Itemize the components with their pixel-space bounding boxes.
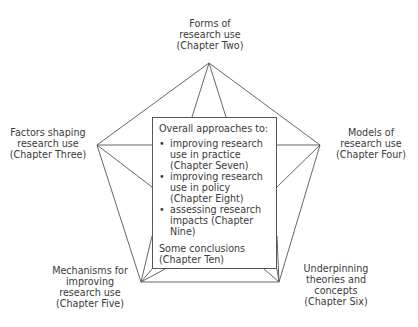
- node-line: concepts: [296, 285, 376, 296]
- node-line: (Chapter Two): [170, 40, 250, 51]
- node-line: Forms of: [170, 18, 250, 29]
- node-line: (Chapter Six): [296, 296, 376, 307]
- node-line: (Chapter Five): [48, 298, 132, 309]
- item-line: use in practice: [170, 149, 270, 160]
- center-heading: Overall approaches to:: [159, 123, 270, 134]
- item-line: impacts (Chapter: [170, 215, 270, 226]
- node-line: (Chapter Three): [2, 149, 94, 160]
- item-line: Nine): [170, 226, 270, 237]
- node-line: research use: [2, 138, 94, 149]
- node-line: improving: [48, 276, 132, 287]
- node-underpinning-theories-and-concepts: Underpinning theories and concepts (Chap…: [296, 263, 376, 307]
- node-line: theories and: [296, 274, 376, 285]
- node-line: Models of: [326, 127, 416, 138]
- item-line: use in policy: [170, 182, 270, 193]
- item-line: assessing research: [170, 204, 270, 215]
- node-line: Underpinning: [296, 263, 376, 274]
- center-list: improving research use in practice (Chap…: [159, 138, 270, 237]
- conclusion-line: (Chapter Ten): [159, 254, 270, 265]
- node-line: research use: [48, 287, 132, 298]
- item-line: (Chapter Seven): [170, 160, 270, 171]
- node-line: Factors shaping: [2, 127, 94, 138]
- center-box-overall-approaches: Overall approaches to: improving researc…: [152, 117, 277, 269]
- center-list-item: improving research use in policy (Chapte…: [159, 171, 270, 204]
- node-line: Mechanisms for: [48, 265, 132, 276]
- item-line: (Chapter Eight): [170, 193, 270, 204]
- item-line: improving research: [170, 138, 270, 149]
- node-line: research use: [326, 138, 416, 149]
- item-line: improving research: [170, 171, 270, 182]
- node-mechanisms-for-improving-research-use: Mechanisms for improving research use (C…: [48, 265, 132, 309]
- center-list-item: assessing research impacts (Chapter Nine…: [159, 204, 270, 237]
- center-list-item: improving research use in practice (Chap…: [159, 138, 270, 171]
- conclusion-line: Some conclusions: [159, 243, 270, 254]
- node-forms-of-research-use: Forms of research use (Chapter Two): [170, 18, 250, 51]
- node-factors-shaping-research-use: Factors shaping research use (Chapter Th…: [2, 127, 94, 160]
- node-line: research use: [170, 29, 250, 40]
- node-line: (Chapter Four): [326, 149, 416, 160]
- node-models-of-research-use: Models of research use (Chapter Four): [326, 127, 416, 160]
- center-conclusion: Some conclusions (Chapter Ten): [159, 243, 270, 265]
